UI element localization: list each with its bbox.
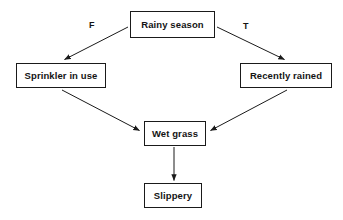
diagram-canvas: Rainy season Sprinkler in use Recently r… <box>0 0 343 220</box>
node-recently-rained[interactable]: Recently rained <box>240 63 332 88</box>
edge-rainy-to-sprinkler <box>65 27 129 60</box>
node-slippery[interactable]: Slippery <box>144 183 202 208</box>
edge-label-true-branch: T <box>243 22 249 31</box>
edge-rainy-to-recently-rained <box>217 27 285 60</box>
edge-label-false-branch: F <box>89 21 95 30</box>
node-rainy-season-label: Rainy season <box>141 20 203 30</box>
node-rainy-season[interactable]: Rainy season <box>130 11 215 38</box>
node-sprinkler-in-use[interactable]: Sprinkler in use <box>16 63 106 88</box>
node-slippery-label: Slippery <box>154 191 192 201</box>
edge-recently-rained-to-wet-grass <box>211 90 288 131</box>
edge-sprinkler-to-wet-grass <box>62 90 140 131</box>
node-sprinkler-in-use-label: Sprinkler in use <box>25 71 98 81</box>
node-wet-grass-label: Wet grass <box>152 129 198 139</box>
node-wet-grass[interactable]: Wet grass <box>144 121 206 146</box>
node-recently-rained-label: Recently rained <box>250 71 322 81</box>
